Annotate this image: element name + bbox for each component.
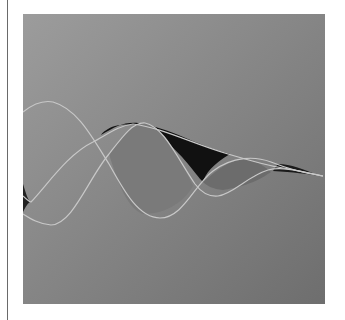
wave-graphic [23, 14, 325, 304]
left-border-rule [7, 0, 8, 320]
wave-artwork [23, 14, 325, 304]
